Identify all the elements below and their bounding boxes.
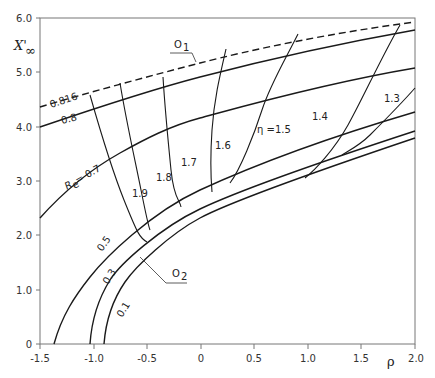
svg-text:O: O xyxy=(172,268,180,279)
y-tick-label: 1.0 xyxy=(16,285,32,296)
x-tick-labels: -1.5 -1.0 -0.5 0 0.5 1.0 1.5 2.0 xyxy=(30,353,424,364)
y-tick-label: 4.0 xyxy=(16,122,32,133)
x-tick-label: 1.0 xyxy=(300,353,316,364)
curve-eta-1.7 xyxy=(163,77,181,207)
x-tick-label: 1.5 xyxy=(353,353,369,364)
x-tick-label: -0.5 xyxy=(137,353,157,364)
o1-annotation: O 1 xyxy=(170,39,196,62)
y-axis xyxy=(36,18,40,344)
curve-re-0.5 xyxy=(54,112,415,344)
svg-text:∞: ∞ xyxy=(25,43,36,58)
x-tick-label: -1.5 xyxy=(30,353,50,364)
curve-re-0.1 xyxy=(104,138,415,344)
eta-curves xyxy=(90,25,415,242)
y-tick-label: 5.0 xyxy=(16,67,32,78)
curve-eta-1.3 xyxy=(342,88,415,155)
label-re-0.816: 0.816 xyxy=(48,91,79,110)
label-eta-1.4: 1.4 xyxy=(312,111,328,122)
y-tick-label: 2.0 xyxy=(16,230,32,241)
x-tick-label: 2.0 xyxy=(408,353,424,364)
label-eta-1.5: η =1.5 xyxy=(257,124,291,135)
curve-re-0.816 xyxy=(40,22,415,107)
svg-text:1: 1 xyxy=(183,42,189,53)
label-eta-1.9: 1.9 xyxy=(132,188,148,199)
label-eta-1.3: 1.3 xyxy=(384,93,400,104)
y-tick-label: 6.0 xyxy=(16,13,32,24)
chart: 0 1.0 2.0 3.0 4.0 5.0 6.0 -1.5 -1.0 -0.5… xyxy=(0,0,435,378)
curve-eta-1.8 xyxy=(120,83,150,230)
label-re-0.5: 0.5 xyxy=(95,234,113,253)
x-tick-label: -1.0 xyxy=(84,353,104,364)
x-axis-label: ρ xyxy=(387,354,395,369)
svg-text:O: O xyxy=(174,39,182,50)
svg-text:= 0.7: = 0.7 xyxy=(73,162,102,185)
curve-re-0.3 xyxy=(90,131,415,344)
svg-text:2: 2 xyxy=(181,271,187,282)
label-re-0.8: 0.8 xyxy=(60,111,78,126)
y-axis-label: X' ∞ xyxy=(13,38,36,58)
y-tick-labels: 0 1.0 2.0 3.0 4.0 5.0 6.0 xyxy=(16,13,32,350)
label-re-0.1: 0.1 xyxy=(114,300,132,319)
plot-frame xyxy=(40,18,415,344)
label-re-0.7: R e = 0.7 xyxy=(63,162,104,194)
re-curves xyxy=(40,22,415,344)
x-axis xyxy=(40,344,415,349)
y-tick-label: 0 xyxy=(26,339,32,350)
x-tick-label: 0.5 xyxy=(246,353,262,364)
label-re-0.3: 0.3 xyxy=(100,267,118,286)
label-eta-1.8: 1.8 xyxy=(156,172,172,183)
x-tick-label: 0 xyxy=(198,353,204,364)
label-eta-1.6: 1.6 xyxy=(215,140,231,151)
o2-annotation: O 2 xyxy=(140,257,187,283)
label-eta-1.7: 1.7 xyxy=(181,157,197,168)
y-tick-label: 3.0 xyxy=(16,176,32,187)
